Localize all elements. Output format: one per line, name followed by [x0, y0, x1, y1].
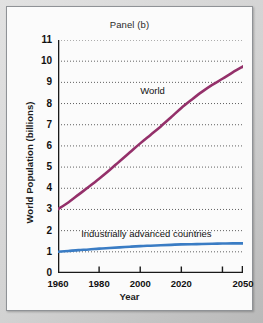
- x-tick-label: 2000: [120, 278, 160, 289]
- x-tick-label: 2020: [161, 278, 201, 289]
- y-tick-label: 2: [30, 225, 52, 236]
- y-tick-label: 1: [30, 246, 52, 257]
- x-axis-title: Year: [7, 291, 252, 302]
- y-tick-label: 0: [30, 267, 52, 278]
- panel-title: Panel (b): [7, 19, 252, 30]
- y-tick-label: 11: [30, 34, 52, 45]
- x-axis-ticks: [99, 267, 222, 273]
- axis-lines: [58, 40, 243, 273]
- x-tick-label: 1960: [38, 278, 78, 289]
- y-tick-label: 5: [30, 161, 52, 172]
- y-tick-label: 8: [30, 98, 52, 109]
- x-tick-label: 2050: [223, 278, 263, 289]
- gridlines: [58, 40, 243, 252]
- y-tick-label: 6: [30, 140, 52, 151]
- series-lines: [58, 66, 243, 251]
- plot-svg: [58, 40, 243, 273]
- y-tick-label: 10: [30, 55, 52, 66]
- y-tick-label: 4: [30, 182, 52, 193]
- figure-frame: Panel (b) World Population (billions) Ye…: [6, 6, 253, 311]
- y-tick-label: 9: [30, 76, 52, 87]
- y-tick-label: 7: [30, 119, 52, 130]
- x-tick-label: 1980: [79, 278, 119, 289]
- y-tick-label: 3: [30, 203, 52, 214]
- plot-area: [58, 40, 243, 273]
- chart-screenshot: Panel (b) World Population (billions) Ye…: [0, 0, 263, 323]
